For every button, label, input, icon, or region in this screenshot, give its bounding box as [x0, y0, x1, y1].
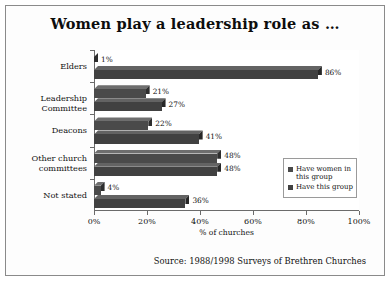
chart-frame: Women play a leadership role as … Elders…	[5, 5, 385, 276]
bar-body	[94, 102, 162, 111]
chart-legend: Have women in this group Have this group	[283, 158, 357, 198]
legend-item: Have women in this group	[287, 165, 353, 182]
legend-swatch-series-0	[288, 167, 293, 172]
bar-body	[94, 70, 318, 79]
bar-series-0	[94, 182, 105, 195]
y-axis-label: LeadershipCommittee	[1, 93, 87, 113]
bar-value-label: 48%	[224, 151, 240, 160]
legend-swatch-series-1	[288, 185, 293, 190]
bar-series-0	[94, 53, 98, 66]
bar-body	[94, 89, 146, 98]
x-axis-tick-label: 80%	[297, 217, 315, 226]
bar-value-label: 21%	[153, 87, 169, 96]
bar-value-label: 48%	[224, 164, 240, 173]
bar-series-1	[94, 163, 221, 176]
source-note: Source: 1988/1998 Surveys of Brethren Ch…	[6, 256, 384, 266]
legend-label-series-0: Have women in this group	[296, 165, 353, 182]
x-axis-tick	[200, 211, 201, 215]
bar-value-label: 27%	[169, 100, 185, 109]
bar-series-0	[94, 117, 152, 130]
bar-body	[94, 134, 199, 143]
bar-series-0	[94, 85, 150, 98]
x-axis-tick-label: 0%	[88, 217, 101, 226]
y-axis-tick	[90, 82, 94, 83]
x-axis-tick-label: 40%	[191, 217, 209, 226]
y-axis-tick	[90, 179, 94, 180]
y-axis-label: Other churchcommittees	[1, 153, 87, 173]
y-axis-label: Deacons	[1, 125, 87, 135]
x-axis-title: % of churches	[94, 228, 359, 237]
x-axis-tick	[94, 211, 95, 215]
y-axis-tick	[90, 50, 94, 51]
bar-body	[94, 167, 217, 176]
bar-side-face	[94, 53, 98, 62]
bar-group: Elders1%86%	[94, 50, 359, 82]
bar-series-1	[94, 98, 166, 111]
x-axis-tick-label: 100%	[348, 217, 371, 226]
bar-series-1	[94, 130, 203, 143]
legend-item: Have this group	[287, 183, 353, 191]
bar-value-label: 4%	[108, 183, 120, 192]
x-axis-tick	[253, 211, 254, 215]
bar-series-1	[94, 195, 189, 208]
legend-label-series-1: Have this group	[296, 183, 353, 191]
bar-group: LeadershipCommittee21%27%	[94, 82, 359, 114]
y-axis-tick	[90, 147, 94, 148]
y-axis-tick	[90, 114, 94, 115]
x-axis-tick-label: 20%	[138, 217, 156, 226]
bar-body	[94, 154, 217, 163]
bar-series-1	[94, 66, 322, 79]
x-axis-tick	[147, 211, 148, 215]
x-axis-tick	[359, 211, 360, 215]
bar-value-label: 36%	[192, 196, 208, 205]
x-axis-tick	[306, 211, 307, 215]
bar-value-label: 86%	[325, 68, 341, 77]
chart-title: Women play a leadership role as …	[6, 15, 384, 32]
bar-value-label: 22%	[155, 119, 171, 128]
bar-series-0	[94, 150, 221, 163]
y-axis-label: Elders	[1, 61, 87, 71]
bar-body	[94, 186, 101, 195]
bar-body	[94, 199, 185, 208]
bar-value-label: 41%	[206, 132, 222, 141]
y-axis-label: Not stated	[1, 190, 87, 200]
bar-value-label: 1%	[101, 55, 113, 64]
bar-group: Deacons22%41%	[94, 114, 359, 146]
x-axis-tick-label: 60%	[244, 217, 262, 226]
bar-body	[94, 121, 148, 130]
